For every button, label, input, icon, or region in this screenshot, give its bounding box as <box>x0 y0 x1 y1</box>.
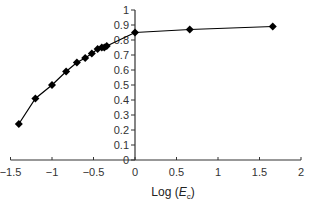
x-axis-title: Log (Ec) <box>151 185 194 201</box>
diamond-marker <box>81 54 89 62</box>
y-tick-label: 0.1 <box>114 139 129 151</box>
y-tick-label: 0.2 <box>114 124 129 136</box>
chart: −1.5−1−0.500.511.52 00.10.20.30.40.50.60… <box>0 0 309 210</box>
x-axis: −1.5−1−0.500.511.52 <box>0 157 304 178</box>
y-tick-label: 0.4 <box>114 94 129 106</box>
y-axis: 00.10.20.30.40.50.60.70.80.91 <box>114 4 135 166</box>
x-tick-label: −0.5 <box>83 166 105 178</box>
y-tick-label: 0.7 <box>114 49 129 61</box>
y-tick-label: 0.9 <box>114 19 129 31</box>
y-tick-label: 0 <box>123 154 129 166</box>
y-tick-label: 0.8 <box>114 34 129 46</box>
series-line <box>19 27 273 125</box>
diamond-marker <box>269 23 277 31</box>
y-tick-label: 0.3 <box>114 109 129 121</box>
y-tick-label: 0.5 <box>114 79 129 91</box>
y-tick-label: 1 <box>123 4 129 16</box>
diamond-marker <box>186 26 194 34</box>
diamond-marker <box>131 29 139 37</box>
x-tick-label: 1 <box>215 166 221 178</box>
y-tick-label: 0.6 <box>114 64 129 76</box>
x-tick-label: 0.5 <box>169 166 184 178</box>
x-tick-label: −1 <box>46 166 59 178</box>
data-series <box>15 23 277 129</box>
x-tick-label: 1.5 <box>252 166 267 178</box>
x-tick-label: 2 <box>298 166 304 178</box>
diamond-marker <box>15 120 23 128</box>
x-tick-label: 0 <box>132 166 138 178</box>
x-tick-label: −1.5 <box>0 166 21 178</box>
